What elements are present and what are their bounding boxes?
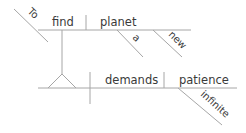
pedestal-right-leg <box>62 74 76 88</box>
word-to: To <box>25 5 41 21</box>
pedestal-left-leg <box>48 74 62 88</box>
word-a: a <box>131 32 143 44</box>
word-infinite: infinite <box>199 88 232 119</box>
word-planet: planet <box>100 15 137 29</box>
word-new: new <box>167 29 189 51</box>
infinitive-phrase: To find planet a new <box>14 5 191 57</box>
word-demands: demands <box>105 73 158 87</box>
sentence-diagram: To find planet a new demands patience in… <box>0 0 246 133</box>
word-find: find <box>52 15 74 29</box>
word-patience: patience <box>179 73 229 87</box>
pedestal <box>48 30 76 88</box>
